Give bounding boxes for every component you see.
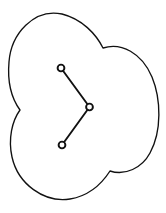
diagram-svg — [0, 0, 166, 213]
figure-canvas — [0, 0, 166, 213]
clover-outline-path — [9, 13, 159, 199]
polyline-node-1[interactable] — [58, 65, 65, 72]
polyline-node-3[interactable] — [59, 142, 66, 149]
polyline-node-2[interactable] — [86, 104, 93, 111]
